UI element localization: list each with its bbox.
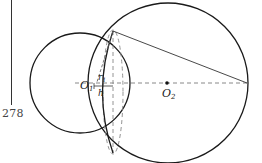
label-o1: O1 <box>80 79 94 93</box>
label-o2: O2 <box>162 87 176 101</box>
label-h: h <box>98 88 104 98</box>
center-o2-point <box>165 81 169 85</box>
label-r1: r1 <box>98 72 106 83</box>
tangent-line <box>113 31 247 83</box>
two-spheres-diagram: O1 r1 h O2 <box>0 0 262 163</box>
lens-front-arc <box>103 31 114 153</box>
